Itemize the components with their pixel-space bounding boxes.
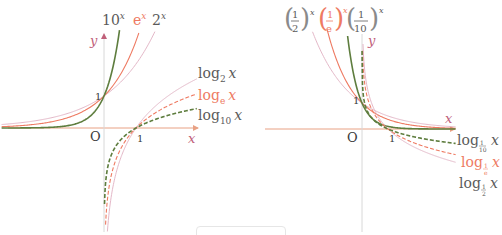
- svg-text:2: 2: [292, 23, 298, 34]
- svg-text:x: x: [491, 132, 499, 148]
- svg-text:x: x: [310, 8, 315, 17]
- svg-text:1: 1: [482, 183, 486, 190]
- label-2-pow-x: 2x: [152, 11, 166, 28]
- caption-box: [196, 226, 286, 235]
- label-e-pow-x: ex: [133, 11, 146, 28]
- svg-text:2: 2: [482, 190, 486, 197]
- svg-text:1: 1: [327, 9, 333, 20]
- label-half-pow-x: ( 1 2 ) x: [284, 3, 315, 34]
- svg-text:1: 1: [480, 139, 484, 146]
- left-y-label: y: [89, 33, 98, 48]
- svg-text:x: x: [490, 175, 498, 191]
- curve-loge-x: [106, 94, 197, 225]
- right-tick-y-1: 1: [353, 95, 359, 106]
- curve-log-half-x: [363, 44, 456, 162]
- svg-text:10: 10: [354, 23, 367, 34]
- left-panel: O 1 1 x y 10x ex 2x log2x logex log10x: [2, 11, 243, 232]
- label-loge: logex: [198, 87, 236, 106]
- left-origin-label: O: [90, 129, 101, 144]
- curve-2-pow-x: [2, 32, 155, 125]
- svg-text:): ): [300, 3, 310, 33]
- function-graphs: O 1 1 x y 10x ex 2x log2x logex log10x O…: [0, 0, 502, 235]
- curve-log10-x: [105, 109, 197, 204]
- label-inv-e-pow-x: ( 1 e ) x: [318, 3, 348, 34]
- label-log2: log2x: [198, 65, 237, 84]
- curve-tenth-pow-x: [348, 36, 456, 129]
- label-10-pow-x: 10x: [102, 11, 125, 28]
- left-tick-y-1: 1: [95, 91, 101, 102]
- svg-text:): ): [369, 3, 379, 33]
- right-curves: [313, 30, 456, 162]
- svg-text:log: log: [459, 175, 481, 191]
- svg-text:1: 1: [358, 9, 364, 20]
- label-log-half: log 1 2 x: [459, 175, 498, 197]
- svg-text:log: log: [461, 154, 483, 170]
- label-log10: log10x: [198, 107, 242, 126]
- left-tick-x-1: 1: [137, 133, 143, 144]
- svg-text:x: x: [492, 154, 500, 170]
- svg-text:log: log: [457, 132, 479, 148]
- svg-text:1: 1: [292, 9, 298, 20]
- curve-10-pow-x: [2, 30, 120, 128]
- right-x-label: x: [445, 111, 453, 126]
- right-panel: O 1 1 x y ( 1 2 ) x ( 1 e ) x ( 1 10 ) x: [265, 3, 500, 232]
- svg-text:e: e: [484, 169, 488, 176]
- right-y-label: y: [367, 33, 376, 48]
- svg-text:1: 1: [484, 162, 488, 169]
- label-log-tenth: log 1 10 x: [457, 132, 499, 153]
- svg-text:e: e: [326, 23, 332, 34]
- label-log-inv-e: log 1 e x: [461, 154, 500, 176]
- svg-text:x: x: [379, 6, 384, 15]
- left-x-label: x: [188, 131, 196, 146]
- curve-log-inv-e-x: [363, 51, 456, 155]
- right-tick-x-1: 1: [389, 133, 395, 144]
- label-tenth-pow-x: ( 1 10 ) x: [346, 3, 384, 34]
- curve-inv-e-pow-x: [327, 30, 455, 128]
- curve-half-pow-x: [313, 32, 456, 127]
- curve-log2-x: [107, 79, 196, 232]
- right-origin-label: O: [347, 130, 358, 145]
- svg-text:10: 10: [479, 146, 487, 153]
